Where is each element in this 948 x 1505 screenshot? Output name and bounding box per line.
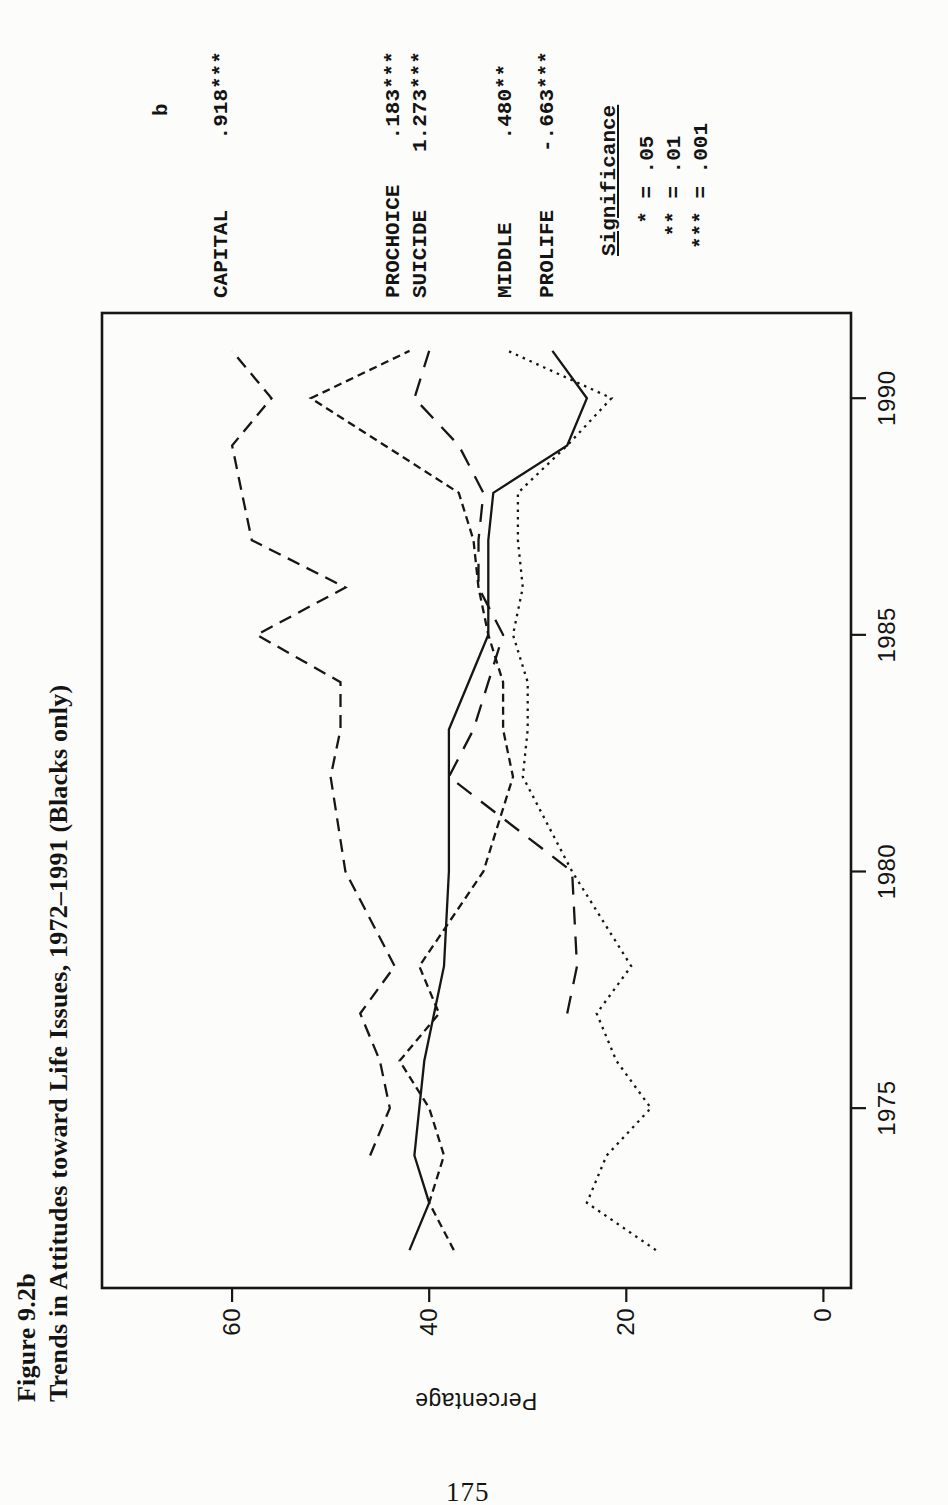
legend-label-middle: MIDDLE [494,222,517,298]
page-number: 175 [446,1477,490,1505]
legend-value-suicide: 1.273*** [409,51,432,152]
legend-label-capital: CAPITAL [210,210,233,298]
legend-value-capital: .918*** [210,51,233,152]
y-tick-label: 40 [415,1308,443,1378]
legend-label-prochoice: PROCHOICE [382,185,405,298]
series-line-prochoice [311,351,513,1250]
legend-label-suicide: SUICIDE [409,210,432,298]
significance-entry-01: ** = .01 [663,136,686,249]
series-line-capital [232,351,395,1156]
legend-b-header: b [150,103,173,116]
x-tick-label: 1985 [873,575,901,695]
series-line-middle [508,351,656,1250]
y-tick-label: 60 [218,1308,246,1378]
x-tick-label: 1980 [873,812,901,932]
significance-entry-001: *** = .001 [690,123,713,249]
y-tick-label: 0 [809,1308,837,1378]
y-tick-label: 20 [612,1308,640,1378]
x-tick-label: 1975 [873,1048,901,1168]
series-line-prolife [410,351,587,1250]
legend-value-prochoice: .183*** [382,51,405,152]
y-axis-label: Percentage [415,1387,538,1414]
significance-title: Significance [598,105,621,256]
significance-entry-05: * = .05 [636,136,659,249]
x-tick-label: 1990 [873,338,901,458]
plot-box [102,313,851,1288]
legend-value-prolife: -.663*** [536,51,559,152]
legend-label-prolife: PROLIFE [536,210,559,298]
legend-value-middle: .480** [494,64,517,152]
series-line-suicide [414,351,577,1014]
